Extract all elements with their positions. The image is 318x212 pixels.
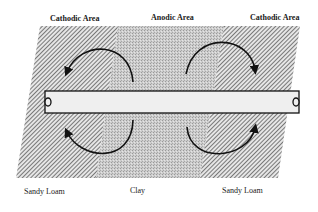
label-anodic-area: Anodic Area [151, 13, 194, 22]
label-sandy-loam-right: Sandy Loam [222, 186, 263, 195]
label-clay: Clay [130, 186, 145, 195]
diagram-canvas: Cathodic Area Anodic Area Cathodic Area … [0, 0, 318, 212]
label-sandy-loam-left: Sandy Loam [24, 187, 65, 196]
pipe [45, 91, 299, 113]
label-cathodic-area-left: Cathodic Area [50, 14, 99, 23]
diagram-graphic [0, 0, 318, 212]
label-cathodic-area-right: Cathodic Area [250, 13, 299, 22]
